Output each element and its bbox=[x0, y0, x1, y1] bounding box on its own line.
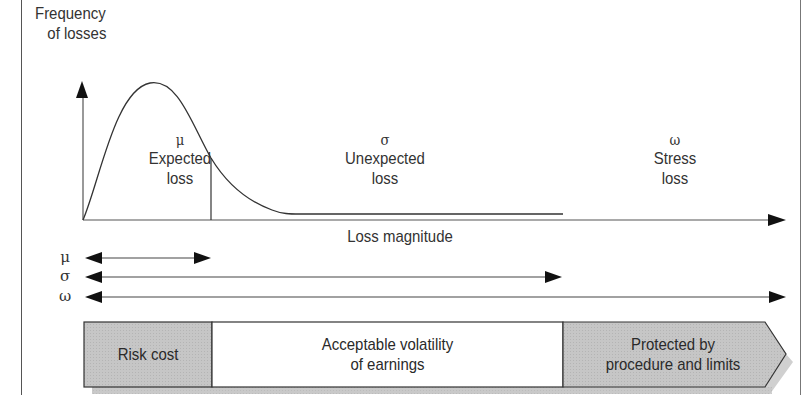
volatility-line1: Acceptable volatility bbox=[322, 335, 453, 354]
y-axis-label-line1: Frequency bbox=[35, 4, 106, 23]
omega-symbol: ω bbox=[618, 132, 732, 149]
range-arrow-sigma bbox=[85, 271, 562, 283]
y-axis-label-line2: of losses bbox=[35, 24, 106, 43]
region-label-line2: loss bbox=[662, 169, 689, 188]
x-axis-arrowhead-icon bbox=[768, 214, 786, 226]
range-symbol-sigma: σ bbox=[55, 268, 75, 284]
region-label-line1: Expected bbox=[149, 149, 211, 168]
band-risk-cost-label: Risk cost bbox=[92, 322, 205, 387]
volatility-line2: of earnings bbox=[350, 355, 424, 374]
band-volatility-label: Acceptable volatility of earnings bbox=[233, 322, 542, 387]
range-symbol-omega: ω bbox=[55, 288, 75, 304]
range-arrow-mu bbox=[85, 252, 211, 264]
range-symbol-mu: μ bbox=[55, 249, 75, 265]
protected-text: Protected by procedure and limits bbox=[606, 335, 741, 375]
x-axis-label: Loss magnitude bbox=[321, 227, 479, 247]
sigma-symbol: σ bbox=[328, 132, 442, 149]
region-unexpected-loss: σ Unexpected loss bbox=[328, 132, 442, 189]
risk-cost-text: Risk cost bbox=[118, 345, 179, 365]
range-arrow-omega bbox=[85, 291, 786, 303]
protected-line1: Protected by bbox=[631, 335, 715, 354]
mu-symbol: μ bbox=[123, 132, 237, 149]
volatility-text: Acceptable volatility of earnings bbox=[322, 335, 453, 375]
region-label-line2: loss bbox=[167, 169, 194, 188]
y-axis bbox=[76, 81, 88, 220]
region-label-line1: Stress bbox=[654, 149, 696, 168]
protected-line2: procedure and limits bbox=[606, 355, 741, 374]
x-axis bbox=[83, 214, 786, 226]
region-expected-loss: μ Expected loss bbox=[123, 132, 237, 189]
region-label-line2: loss bbox=[372, 169, 399, 188]
y-axis-label: Frequency of losses bbox=[35, 4, 123, 44]
y-axis-arrowhead-icon bbox=[76, 81, 88, 98]
region-stress-loss: ω Stress loss bbox=[618, 132, 732, 189]
band-protected-label: Protected by procedure and limits bbox=[576, 322, 770, 387]
region-label-line1: Unexpected bbox=[345, 149, 425, 168]
